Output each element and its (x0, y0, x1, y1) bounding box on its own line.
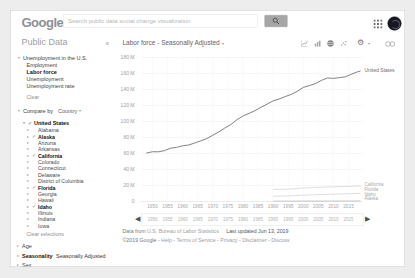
search-input[interactable] (64, 14, 258, 28)
clear-selections-link[interactable]: Clear selections (27, 231, 132, 237)
sidebar-item-sex[interactable]: ▸ Sex (17, 262, 122, 268)
dataset-label: Unemployment in the U.S. (23, 55, 87, 62)
map-icon[interactable] (327, 40, 335, 50)
chart-title: Labor force - Seasonally Adjusted (123, 39, 220, 47)
footer-link[interactable]: Help (161, 237, 172, 243)
footer-data-from: Data from (123, 228, 146, 234)
filter-label: Sex (22, 262, 31, 268)
filter-value: Seasonally Adjusted (56, 252, 106, 259)
tree-item-label: Iowa (38, 222, 49, 229)
y-axis-tick-label: 40 M (104, 167, 135, 173)
compare-by-dropdown[interactable]: Country (58, 108, 77, 115)
sidebar-item-age[interactable]: ▸ Age (17, 243, 122, 250)
series-label-united-states: United States (365, 68, 395, 74)
y-axis-tick-label: 160 M (104, 71, 135, 77)
tree-item-label: United States (34, 120, 69, 127)
line-chart-plot[interactable] (141, 52, 364, 208)
y-axis-tick-label: 180 M (104, 55, 135, 61)
search-icon (272, 17, 280, 25)
sidebar-item-employment[interactable]: Employment (18, 62, 123, 69)
clear-link[interactable]: Clear (27, 94, 132, 100)
bar-chart-icon[interactable] (314, 40, 322, 50)
public-data-explorer-page: Google Public Data « ▾ Unemployment in t… (10, 10, 405, 267)
footer-link[interactable]: Disclaimer (242, 237, 267, 243)
slider-year-label: 2015 (339, 217, 359, 222)
y-axis-tick-label: 100 M (104, 119, 135, 125)
footer-link[interactable]: Terms of Service (176, 237, 215, 243)
sidebar-item-seasonality[interactable]: ▸ Seasonality Seasonally Adjusted (17, 252, 122, 259)
avatar[interactable] (388, 17, 402, 31)
x-axis-tick-label: 2015 (339, 203, 359, 209)
y-axis-tick-label: 140 M (104, 87, 135, 93)
chart-title-dropdown[interactable]: Labor force - Seasonally Adjusted▾ (123, 39, 225, 47)
footer-copyright: ©2019 Google (123, 237, 157, 243)
footer-link[interactable]: Discuss (271, 237, 289, 243)
chevron-down-icon: ▾ (222, 42, 224, 47)
states-list: ▸Alabama▸✓Alaska▸Arizona▸Arkansas▸✓Calif… (27, 127, 117, 229)
line-chart-icon[interactable] (301, 40, 309, 50)
y-axis-tick-label: 20 M (104, 183, 135, 189)
y-axis-tick-label: 0 (104, 199, 135, 205)
slider-right-handle[interactable]: ▶ (365, 215, 370, 223)
page-title: Public Data (22, 37, 68, 48)
filter-label: Seasonality (22, 252, 53, 259)
chevron-right-icon[interactable]: ▸ (27, 222, 33, 229)
footer-links: - Help - Terms of Service - Privacy - Di… (156, 237, 289, 243)
chevron-down-icon: ▾ (79, 108, 81, 115)
scatter-chart-icon[interactable] (340, 40, 348, 50)
footer-link[interactable]: Privacy (220, 237, 237, 243)
filter-label: Age (22, 243, 32, 250)
sidebar-item-unemployment[interactable]: Unemployment (18, 76, 123, 83)
footer-last-updated: Last updated Jun 13, 2019 (226, 228, 288, 234)
y-axis-tick-label: 120 M (104, 103, 135, 109)
slider-left-handle[interactable]: ◀ (135, 215, 140, 223)
y-axis-tick-label: 60 M (104, 151, 135, 157)
compare-by-label: Compare by (23, 108, 53, 115)
search-button[interactable] (265, 15, 288, 27)
google-logo: Google (22, 15, 64, 31)
tree-item-state[interactable]: ▸Iowa (27, 222, 117, 228)
y-axis-tick-label: 80 M (104, 135, 135, 141)
footer-source-link[interactable]: U.S. Bureau of Labor Statistics (147, 228, 219, 234)
link-icon[interactable] (385, 41, 397, 50)
collapse-sidebar-icon[interactable]: « (106, 40, 110, 48)
apps-grid-icon[interactable] (374, 20, 383, 29)
gear-icon[interactable]: ⚙ (357, 38, 364, 48)
chevron-down-icon[interactable]: ▾ (368, 42, 370, 47)
legend-label-alaska: Alaska (365, 196, 379, 201)
